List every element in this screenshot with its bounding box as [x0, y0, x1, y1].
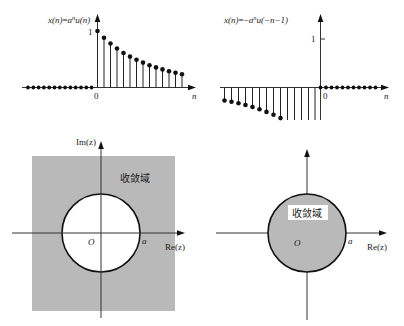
roc-label-left: 收敛域: [120, 172, 150, 184]
expression-label-top-right: x(n)=−anu(−n−1): [223, 14, 288, 26]
pole-label-left: a: [142, 236, 147, 246]
panel-top-right: x(n)=−anu(−n−1) n 0 1: [202, 0, 404, 120]
decaying-stems-top-left: [95, 29, 184, 88]
amplitude-tick-label-top-left: 1: [88, 27, 93, 37]
panel-top-left: x(n)=anu(n) n 0 1: [0, 0, 202, 120]
re-axis-label-left: Re(z): [165, 242, 185, 252]
origin-label-top-right: 0: [323, 91, 328, 101]
negative-stems-top-right: [222, 88, 315, 121]
pole-label-right: a: [348, 236, 353, 246]
z-plane-roc-exterior: Im(z) Re(z) O a 收敛域: [0, 120, 202, 326]
im-axis-label-left: Im(z): [76, 137, 96, 147]
y-axis-top-right: [318, 14, 324, 120]
amplitude-tick-top-right: 1: [311, 34, 325, 44]
x-axis-label-top-left: n: [192, 91, 197, 101]
stem-plot-right-sided: x(n)=anu(n) n 0 1: [0, 0, 202, 120]
origin-label-left: O: [88, 237, 95, 247]
stem-plot-left-sided: x(n)=−anu(−n−1) n 0 1: [202, 0, 404, 120]
origin-label-top-left: 0: [94, 91, 99, 101]
panel-bottom-right: 收敛域 Re(z) O a: [202, 120, 404, 326]
panel-bottom-left: Im(z) Re(z) O a 收敛域: [0, 120, 202, 326]
origin-label-right: O: [294, 238, 301, 248]
x-axis-label-top-right: n: [384, 91, 389, 101]
amplitude-tick-label-top-right: 1: [311, 34, 316, 44]
re-axis-label-right: Re(z): [367, 242, 387, 252]
z-plane-roc-interior: 收敛域 Re(z) O a: [202, 120, 404, 326]
expression-label-top-left: x(n)=anu(n): [47, 14, 90, 26]
zero-samples-top-right: [319, 86, 378, 90]
roc-label-right: 收敛域: [292, 207, 322, 219]
